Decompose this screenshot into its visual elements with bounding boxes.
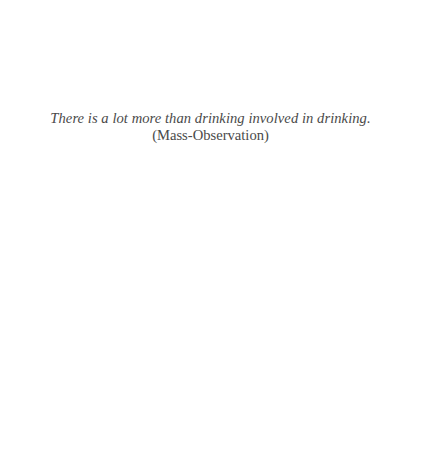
epigraph: There is a lot more than drinking involv… [0,110,421,144]
epigraph-quote: There is a lot more than drinking involv… [0,110,421,127]
epigraph-attribution: (Mass-Observation) [0,127,421,144]
